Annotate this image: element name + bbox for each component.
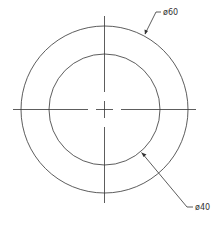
arrowhead-outer xyxy=(145,30,149,35)
arrowhead-inner xyxy=(142,153,147,158)
dimension-label-outer: ø60 xyxy=(163,8,178,17)
technical-drawing: ø60 ø40 xyxy=(0,0,220,231)
dimension-label-inner: ø40 xyxy=(195,203,210,212)
leader-outer xyxy=(145,12,161,34)
